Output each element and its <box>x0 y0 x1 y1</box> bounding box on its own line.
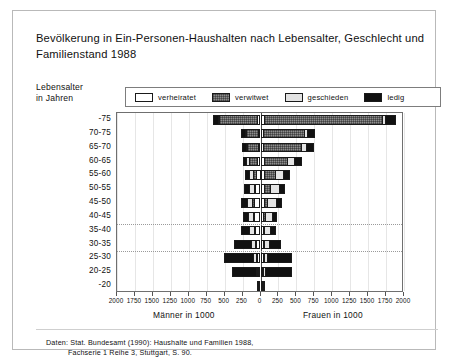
y-tick-label-65-70: 65-70 <box>89 140 111 154</box>
bar-men-65-70 <box>242 143 260 153</box>
x-tick-label-9: 250 <box>272 297 283 304</box>
bar-row-40-45 <box>117 210 402 224</box>
x-tick-9 <box>277 292 278 296</box>
x-tick-3 <box>170 292 171 296</box>
bar-men-70-75 <box>241 129 260 139</box>
legend-label-widowed: verwitwet <box>235 93 268 102</box>
x-tick-2 <box>152 292 153 296</box>
segment-men-married-65-70 <box>258 144 259 152</box>
legend-item-widowed: verwitwet <box>212 93 268 102</box>
y-tick-label-40-45: 40-45 <box>89 209 111 223</box>
bar-women-45-50 <box>261 198 282 208</box>
plot-inner <box>117 113 402 291</box>
x-tick-5 <box>206 292 207 296</box>
segment-women-divorced-60-65 <box>287 158 295 166</box>
bar-row--75 <box>117 113 402 127</box>
legend-label-divorced: geschieden <box>308 93 349 102</box>
segment-women-divorced-55-60 <box>275 171 284 179</box>
bar-women-50-55 <box>261 184 285 194</box>
segment-men-widowed-70-75 <box>246 130 258 138</box>
bar-men--75 <box>213 115 261 125</box>
bar-women-65-70 <box>261 143 314 153</box>
x-tick-label-3: 1250 <box>162 297 177 304</box>
bar-row-60-65 <box>117 155 402 169</box>
segment-women-single-55-60 <box>283 171 288 179</box>
segment-men-married--75 <box>257 116 259 124</box>
legend-item-divorced: geschieden <box>285 93 349 102</box>
y-tick-label-55-60: 55-60 <box>89 167 111 181</box>
x-tick-label-7: 250 <box>236 297 247 304</box>
bar-row-25-30 <box>117 251 402 265</box>
bar-row--20 <box>117 279 402 293</box>
legend-swatch-widowed <box>212 93 230 102</box>
legend-item-married: verheiratet <box>135 93 196 102</box>
segment-men-married-40-45 <box>254 213 259 221</box>
bar-women-25-30 <box>261 253 293 263</box>
x-axis-tick-labels: 2000175015001250100075050025002505007501… <box>76 297 446 307</box>
segment-men-married-30-35 <box>256 241 260 249</box>
x-tick-12 <box>331 292 332 296</box>
bar-row-65-70 <box>117 141 402 155</box>
x-tick-label-10: 500 <box>290 297 301 304</box>
x-tick-label-1: 1750 <box>127 297 142 304</box>
segment-men-married-25-30 <box>257 254 260 262</box>
figure-frame: Bevölkerung in Ein-Personen-Haushalten n… <box>12 10 436 350</box>
segment-men-married-70-75 <box>258 130 259 138</box>
segment-men-widowed-60-65 <box>249 158 257 166</box>
x-tick-16 <box>403 292 404 296</box>
segment-women-single-65-70 <box>306 144 313 152</box>
x-tick-label-13: 1250 <box>342 297 357 304</box>
segment-women-divorced-50-55 <box>270 185 279 193</box>
x-tick-0 <box>116 292 117 296</box>
segment-men-married-45-50 <box>254 199 260 207</box>
x-tick-13 <box>349 292 350 296</box>
bar-women--20 <box>261 281 265 291</box>
segment-women-single-25-30 <box>267 254 291 262</box>
segment-men-married-60-65 <box>257 158 260 166</box>
x-tick-label-15: 1750 <box>378 297 393 304</box>
segment-men-single-30-35 <box>235 241 250 249</box>
bar-row-55-60 <box>117 168 402 182</box>
y-tick-label--75: -75 <box>99 112 111 126</box>
x-tick-4 <box>188 292 189 296</box>
bar-row-35-40 <box>117 224 402 238</box>
x-axis-caption-women: Frauen in 1000 <box>303 310 363 320</box>
segment-women-widowed-60-65 <box>264 158 287 166</box>
segment-men-single-20-25 <box>233 268 257 276</box>
y-tick-label-20-25: 20-25 <box>89 264 111 278</box>
legend: verheiratetverwitwetgeschiedenledig <box>125 87 441 107</box>
x-tick-label-11: 750 <box>308 297 319 304</box>
x-tick-8 <box>260 292 261 296</box>
y-tick-label-45-50: 45-50 <box>89 195 111 209</box>
source-line-1: Daten: Stat. Bundesamt (1990): Haushalte… <box>46 338 376 348</box>
bar-row-50-55 <box>117 182 402 196</box>
segment-women-single-35-40 <box>270 227 275 235</box>
y-tick-label-25-30: 25-30 <box>89 250 111 264</box>
bar-women-70-75 <box>261 129 315 139</box>
bar-women-60-65 <box>261 157 302 167</box>
source-line-2: Fachserie 1 Reihe 3, Stuttgart, S. 90. <box>46 348 376 358</box>
segment-women-single-30-35 <box>269 241 279 249</box>
x-tick-7 <box>242 292 243 296</box>
x-tick-label-12: 1000 <box>324 297 339 304</box>
x-tick-label-4: 1000 <box>180 297 195 304</box>
x-tick-15 <box>385 292 386 296</box>
bar-men-25-30 <box>224 253 260 263</box>
y-axis-title-line2: in Jahren <box>36 93 114 104</box>
bar-row-30-35 <box>117 238 402 252</box>
x-tick-label-16: 2000 <box>396 297 411 304</box>
bar-women-40-45 <box>261 212 277 222</box>
bar-row-45-50 <box>117 196 402 210</box>
bar-men-50-55 <box>244 184 260 194</box>
segment-women-single-45-50 <box>276 199 280 207</box>
y-axis-labels: -7570-7565-7060-6555-6050-5545-5040-4535… <box>49 112 111 292</box>
segment-women-single--75 <box>385 116 396 124</box>
segment-women-divorced-40-45 <box>265 213 272 221</box>
bar-men-30-35 <box>234 240 260 250</box>
y-tick-label-30-35: 30-35 <box>89 237 111 251</box>
bar-row-70-75 <box>117 127 402 141</box>
x-tick-6 <box>224 292 225 296</box>
legend-swatch-married <box>135 93 153 102</box>
x-tick-label-8: 0 <box>258 297 262 304</box>
plot-area <box>116 112 403 292</box>
